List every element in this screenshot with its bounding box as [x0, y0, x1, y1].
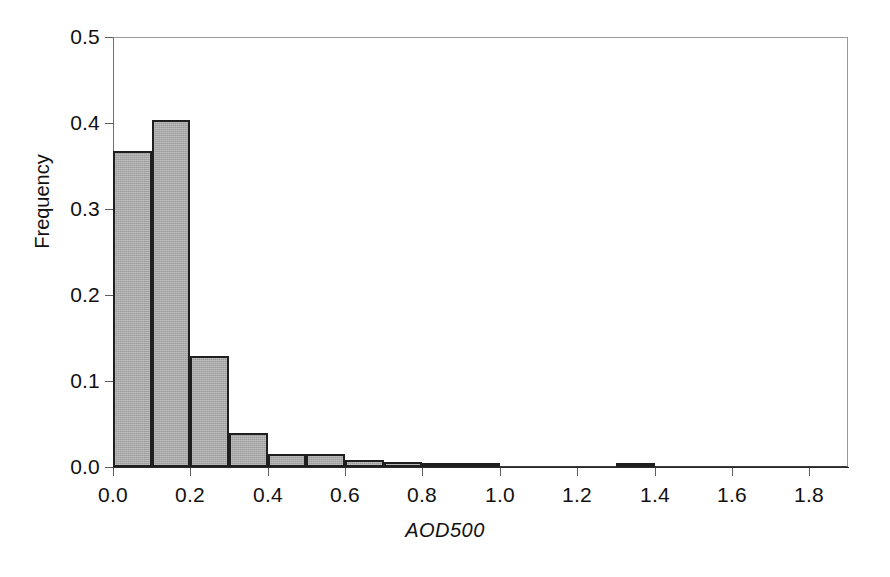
y-tick: [105, 295, 113, 296]
x-tick-label: 0.0: [73, 484, 153, 506]
y-tick: [105, 467, 113, 468]
y-tick: [105, 209, 113, 210]
x-tick-label: 1.2: [537, 484, 617, 506]
x-tick: [422, 468, 423, 476]
x-tick: [809, 468, 810, 476]
histogram-bar: [384, 462, 423, 467]
x-tick: [190, 468, 191, 476]
histogram-bar: [345, 460, 384, 467]
x-tick-label: 0.6: [305, 484, 385, 506]
y-tick-label: 0.1: [38, 370, 100, 391]
x-tick-label: 0.2: [150, 484, 230, 506]
y-tick-label: 0.2: [38, 284, 100, 305]
y-tick-label: 0.0: [38, 456, 100, 477]
x-tick-label: 1.6: [692, 484, 772, 506]
y-tick: [105, 381, 113, 382]
x-tick-label: 1.4: [615, 484, 695, 506]
x-tick: [268, 468, 269, 476]
x-tick: [345, 468, 346, 476]
histogram-bar: [461, 463, 500, 467]
histogram-chart: 0.00.10.20.30.40.5 0.00.20.40.60.81.01.2…: [0, 0, 890, 577]
histogram-bar: [152, 120, 191, 467]
histogram-bar: [190, 356, 229, 467]
histogram-bar: [616, 463, 655, 467]
x-tick-label: 1.0: [460, 484, 540, 506]
x-tick-label: 0.8: [382, 484, 462, 506]
x-tick: [655, 468, 656, 476]
histogram-bar: [268, 454, 307, 467]
y-tick-label: 0.5: [38, 26, 100, 47]
histogram-bar: [422, 463, 461, 467]
y-tick: [105, 37, 113, 38]
x-tick-label: 0.4: [228, 484, 308, 506]
histogram-bar: [306, 454, 345, 467]
y-tick: [105, 123, 113, 124]
histogram-bars: [113, 37, 848, 467]
histogram-bar: [113, 151, 152, 467]
x-tick: [500, 468, 501, 476]
x-tick-label: 1.8: [769, 484, 849, 506]
x-tick: [577, 468, 578, 476]
x-tick: [732, 468, 733, 476]
x-axis-title: AOD500: [0, 519, 890, 542]
histogram-bar: [229, 433, 268, 467]
x-axis-line: [113, 467, 849, 468]
y-axis-title: Frequency: [31, 122, 54, 282]
x-tick: [113, 468, 114, 476]
